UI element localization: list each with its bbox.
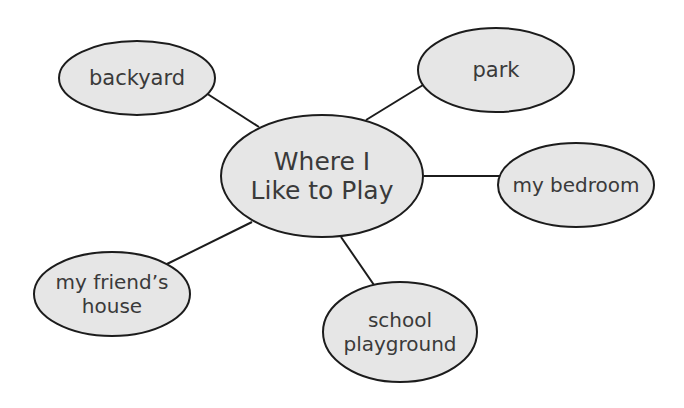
bubble-school-playground-label-line: playground [343, 332, 456, 356]
bubble-park-label-line: park [473, 58, 521, 82]
bubble-park: park [418, 28, 574, 112]
bubble-my-friends-house-label-line: my friend’s [56, 270, 169, 294]
central-topic-bubble-label-line: Where I [274, 147, 370, 176]
bubble-my-friends-house: my friend’shouse [34, 252, 190, 336]
bubble-school-playground: schoolplayground [323, 282, 477, 382]
connector-park [366, 85, 423, 120]
bubble-map: backyardparkmy bedroommy friend’shousesc… [0, 0, 684, 408]
bubbles: backyardparkmy bedroommy friend’shousesc… [34, 28, 654, 382]
connector-backyard [206, 93, 259, 127]
central-topic-bubble: Where ILike to Play [221, 115, 423, 237]
connector-school-playground [341, 237, 374, 285]
bubble-backyard: backyard [59, 41, 215, 115]
bubble-school-playground-label-line: school [368, 308, 432, 332]
bubble-my-friends-house-label-line: house [82, 294, 142, 318]
bubble-my-bedroom: my bedroom [498, 143, 654, 227]
bubble-my-bedroom-label-line: my bedroom [512, 173, 639, 197]
central-topic-bubble-label-line: Like to Play [251, 176, 394, 205]
connector-my-friends-house [167, 222, 252, 264]
bubble-backyard-label-line: backyard [89, 66, 185, 90]
